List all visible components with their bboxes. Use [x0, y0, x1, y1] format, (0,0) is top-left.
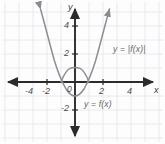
y-tick-label-neg2: -2 — [61, 104, 69, 113]
y-tick-label-4: 4 — [64, 21, 69, 30]
y-tick-label-2: 2 — [64, 49, 69, 58]
y-axis-label: y — [68, 3, 73, 12]
grid-lines — [2, 2, 163, 142]
abs-function-label: y = |f(x)| — [113, 45, 146, 54]
x-tick-label-neg4: -4 — [25, 87, 33, 96]
origin-label: 0 — [67, 85, 72, 94]
x-axis-label: x — [154, 86, 159, 95]
x-tick-label-4: 4 — [127, 87, 132, 96]
function-label: y = f(x) — [84, 100, 112, 109]
graph-figure: -2 -4 2 4 4 2 -2 0 x y y = |f(x)| y = f(… — [0, 0, 165, 144]
x-tick-label-neg2: -2 — [42, 87, 50, 96]
coordinate-plane — [0, 0, 165, 144]
x-tick-label-2: 2 — [99, 87, 104, 96]
